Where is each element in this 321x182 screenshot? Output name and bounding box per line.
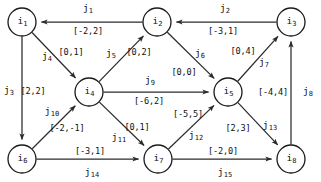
graph-figure: j1[-2,2]j2[-3,1]j3[2,2]j4[0,1]j5[0,2]j6[…: [0, 0, 321, 182]
edge-label-letter: j: [4, 84, 10, 95]
node-label-i7: i7: [153, 152, 163, 165]
node-label-letter: i: [153, 152, 159, 163]
edge-label-letter: j: [145, 74, 151, 85]
edge-label-letter: j: [259, 56, 265, 67]
edge-layer: [22, 22, 291, 159]
edge-label-index: 11: [118, 137, 126, 145]
node-label-index: 6: [23, 157, 27, 165]
edge-label-index: 7: [265, 62, 269, 70]
edge-interval-j3: [2,2]: [21, 86, 46, 96]
edge-label-j5: j5: [106, 47, 116, 60]
edge-label-j9: j9: [145, 74, 155, 87]
edge-label-letter: j: [42, 50, 48, 61]
node-label-i4: i4: [84, 85, 94, 98]
node-label-index: 2: [158, 20, 162, 28]
edge-interval-j2: [-3,1]: [208, 26, 238, 36]
edge-label-index: 6: [201, 53, 205, 61]
edge-interval-j5: [0,2]: [127, 47, 152, 57]
edge-interval-j13: [2,3]: [226, 123, 251, 133]
edge-label-letter: j: [189, 129, 195, 140]
edge-interval-j6: [0,0]: [172, 67, 197, 77]
edge-label-j12: j12: [189, 129, 203, 142]
node-label-letter: i: [223, 85, 229, 96]
edge-label-letter: j: [195, 47, 201, 58]
node-label-letter: i: [152, 15, 158, 26]
edge-label-index: 1: [89, 8, 93, 16]
edge-label-j8: j8: [303, 85, 313, 98]
edge-label-letter: j: [218, 166, 224, 177]
edge-interval-j15: [-2,0]: [208, 146, 238, 156]
node-label-index: 3: [292, 20, 296, 28]
edge-label-j10: j10: [45, 105, 59, 118]
edge-label-index: 8: [309, 91, 313, 99]
node-label-index: 7: [159, 157, 163, 165]
node-label-letter: i: [17, 152, 23, 163]
edge-label-index: 9: [151, 80, 155, 88]
edge-label-j11: j11: [112, 131, 126, 144]
graph-edge-j7: [238, 36, 278, 81]
node-label-index: 4: [90, 90, 94, 98]
node-label-letter: i: [286, 15, 292, 26]
edge-label-j13: j13: [263, 119, 277, 132]
edge-interval-j9: [-6,2]: [134, 96, 164, 106]
edge-label-letter: j: [112, 131, 118, 142]
edge-interval-j10: [-2,-1]: [50, 123, 85, 133]
edge-interval-j4: [0,1]: [59, 47, 84, 57]
edge-label-letter: j: [263, 119, 269, 130]
edge-label-index: 2: [226, 8, 230, 16]
edge-interval-j11: [0,1]: [125, 122, 150, 132]
node-label-i8: i8: [286, 152, 296, 165]
edge-label-index: 5: [112, 53, 116, 61]
edge-interval-j8: [-4,4]: [258, 87, 288, 97]
node-label-index: 1: [23, 20, 27, 28]
node-label-index: 5: [229, 90, 233, 98]
edge-label-index: 13: [269, 125, 277, 133]
node-label-letter: i: [286, 152, 292, 163]
edge-label-index: 15: [224, 172, 232, 180]
edge-label-letter: j: [45, 105, 51, 116]
edge-interval-j7: [0,4]: [231, 46, 256, 56]
edge-label-j15: j15: [218, 166, 232, 179]
edge-label-letter: j: [220, 2, 226, 13]
edge-label-j7: j7: [259, 56, 269, 69]
node-label-i5: i5: [223, 85, 233, 98]
edge-label-j3: j3: [4, 84, 14, 97]
node-label-i6: i6: [17, 152, 27, 165]
edge-label-letter: j: [83, 2, 89, 13]
edge-label-letter: j: [303, 85, 309, 96]
edge-label-index: 10: [51, 111, 59, 119]
edge-label-index: 12: [195, 135, 203, 143]
node-label-index: 8: [292, 157, 296, 165]
edge-label-index: 4: [48, 56, 52, 64]
edge-label-j2: j2: [220, 2, 230, 15]
node-label-i2: i2: [152, 15, 162, 28]
node-label-letter: i: [17, 15, 23, 26]
edge-label-j4: j4: [42, 50, 52, 63]
edge-label-letter: j: [106, 47, 112, 58]
edge-interval-j14: [-3,1]: [75, 146, 105, 156]
edge-label-j6: j6: [195, 47, 205, 60]
node-label-i1: i1: [17, 15, 27, 28]
node-label-letter: i: [84, 85, 90, 96]
edge-label-letter: j: [85, 166, 91, 177]
edge-label-j1: j1: [83, 2, 93, 15]
node-label-i3: i3: [286, 15, 296, 28]
edge-label-index: 14: [91, 172, 99, 180]
edge-interval-j1: [-2,2]: [73, 26, 103, 36]
edge-label-j14: j14: [85, 166, 99, 179]
edge-label-index: 3: [10, 90, 14, 98]
edge-interval-j12: [-5,5]: [173, 109, 203, 119]
